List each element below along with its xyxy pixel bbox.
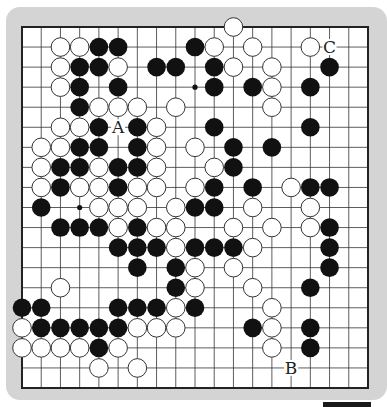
black-stone xyxy=(128,298,147,317)
white-stone xyxy=(51,118,70,137)
white-stone xyxy=(109,218,128,237)
black-stone xyxy=(70,98,89,117)
white-stone xyxy=(186,258,205,277)
white-stone xyxy=(109,198,128,217)
black-stone xyxy=(147,298,166,317)
black-stone xyxy=(109,238,128,257)
white-stone xyxy=(70,38,89,57)
black-stone xyxy=(166,58,185,77)
white-stone xyxy=(128,359,147,378)
black-stone xyxy=(51,319,70,338)
star-point xyxy=(192,85,197,90)
white-stone xyxy=(51,278,70,297)
black-stone xyxy=(32,319,51,338)
black-stone xyxy=(109,298,128,317)
white-stone xyxy=(51,78,70,97)
black-stone xyxy=(166,278,185,297)
star-point xyxy=(77,205,82,210)
black-stone xyxy=(90,319,109,338)
black-stone xyxy=(224,158,243,177)
white-stone xyxy=(301,38,320,57)
white-stone xyxy=(128,178,147,197)
black-stone xyxy=(128,218,147,237)
white-stone xyxy=(243,278,262,297)
white-stone xyxy=(32,178,51,197)
black-stone xyxy=(13,298,32,317)
black-stone xyxy=(186,238,205,257)
black-stone xyxy=(205,118,224,137)
white-stone xyxy=(90,98,109,117)
black-stone xyxy=(90,118,109,137)
white-stone xyxy=(128,98,147,117)
black-stone xyxy=(320,238,339,257)
white-stone xyxy=(205,158,224,177)
white-stone xyxy=(166,218,185,237)
black-stone xyxy=(301,339,320,358)
black-stone xyxy=(90,339,109,358)
black-stone xyxy=(320,178,339,197)
white-stone xyxy=(186,278,205,297)
black-stone xyxy=(128,258,147,277)
white-stone xyxy=(166,98,185,117)
bottom-bar xyxy=(323,402,371,407)
black-stone xyxy=(109,78,128,97)
white-stone xyxy=(301,218,320,237)
black-stone xyxy=(32,198,51,217)
white-stone xyxy=(13,339,32,358)
white-stone xyxy=(51,339,70,358)
black-stone xyxy=(320,258,339,277)
black-stone xyxy=(51,218,70,237)
point-label-a: A xyxy=(111,117,125,137)
white-stone xyxy=(70,178,89,197)
white-stone xyxy=(166,319,185,338)
go-board: ABC xyxy=(0,0,387,407)
white-stone xyxy=(224,58,243,77)
black-stone xyxy=(224,138,243,157)
white-stone xyxy=(263,78,282,97)
white-stone xyxy=(70,339,89,358)
black-stone xyxy=(205,198,224,217)
white-stone xyxy=(166,298,185,317)
black-stone xyxy=(90,38,109,57)
black-stone xyxy=(224,238,243,257)
point-label-c: C xyxy=(323,37,336,57)
black-stone xyxy=(109,158,128,177)
black-stone xyxy=(128,238,147,257)
black-stone xyxy=(186,38,205,57)
white-stone xyxy=(90,178,109,197)
black-stone xyxy=(109,38,128,57)
white-stone xyxy=(166,198,185,217)
white-stone xyxy=(128,319,147,338)
black-stone xyxy=(90,138,109,157)
black-stone xyxy=(301,78,320,97)
white-stone xyxy=(243,238,262,257)
white-stone xyxy=(51,58,70,77)
white-stone xyxy=(243,198,262,217)
black-stone xyxy=(70,58,89,77)
black-stone xyxy=(301,278,320,297)
black-stone xyxy=(166,258,185,277)
black-stone xyxy=(186,298,205,317)
black-stone xyxy=(32,298,51,317)
white-stone xyxy=(51,38,70,57)
black-stone xyxy=(301,178,320,197)
white-stone xyxy=(224,258,243,277)
black-stone xyxy=(51,178,70,197)
white-stone xyxy=(147,218,166,237)
black-stone xyxy=(90,58,109,77)
black-stone xyxy=(109,178,128,197)
white-stone xyxy=(90,158,109,177)
black-stone xyxy=(70,158,89,177)
black-stone xyxy=(109,319,128,338)
black-stone xyxy=(205,178,224,197)
white-stone xyxy=(186,178,205,197)
white-stone xyxy=(263,98,282,117)
black-stone xyxy=(128,138,147,157)
white-stone xyxy=(32,339,51,358)
white-stone xyxy=(128,198,147,217)
black-stone xyxy=(320,218,339,237)
white-stone xyxy=(186,138,205,157)
white-stone xyxy=(70,118,89,137)
white-stone xyxy=(32,158,51,177)
black-stone xyxy=(128,118,147,137)
